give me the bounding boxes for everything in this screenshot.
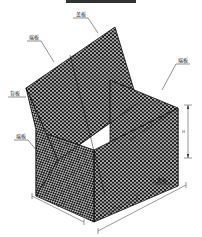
face-panel-label: 面板 <box>157 177 167 184</box>
label-lid: 盖板 <box>73 11 98 33</box>
end-panel-right-label: 端板 <box>178 57 188 64</box>
end-panel-lower-label: 端板 <box>16 133 26 140</box>
title-bar <box>66 0 136 3</box>
height-dimension: H <box>182 105 192 158</box>
label-end-lower: 端板 <box>14 133 38 152</box>
lid-label: 盖板 <box>76 11 86 18</box>
label-end-right: 端板 <box>162 57 190 90</box>
end-panel-top-label: 端板 <box>29 34 39 41</box>
gabion-diagram: 盖板 端板 端板 背板 端板 面板 H <box>0 0 202 237</box>
label-end-top: 端板 <box>27 34 54 62</box>
length-partial-label: 1m <box>112 205 119 210</box>
label-back: 背板 <box>8 90 26 97</box>
back-panel-label: 背板 <box>10 90 20 97</box>
height-label: H <box>182 129 185 134</box>
width-label: W <box>57 203 61 208</box>
